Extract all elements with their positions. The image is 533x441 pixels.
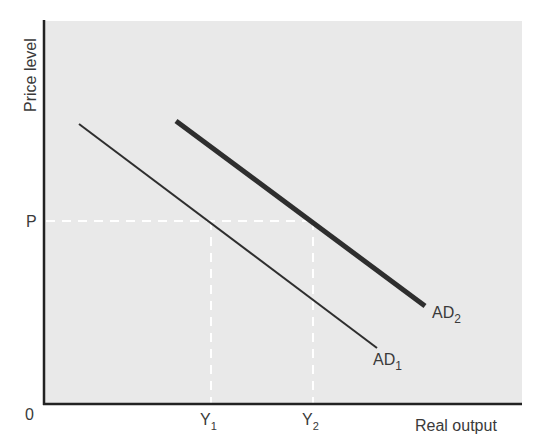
y-axis-label: Price level	[22, 38, 39, 112]
ad-shift-diagram: Price level Real output 0 P Y1 Y2 AD1 AD…	[0, 0, 533, 441]
y2-label: Y2	[302, 411, 319, 432]
y1-label: Y1	[200, 411, 217, 432]
origin-label: 0	[25, 406, 34, 423]
plot-area	[44, 21, 522, 404]
price-label: P	[26, 213, 37, 230]
x-axis-label: Real output	[415, 417, 497, 434]
